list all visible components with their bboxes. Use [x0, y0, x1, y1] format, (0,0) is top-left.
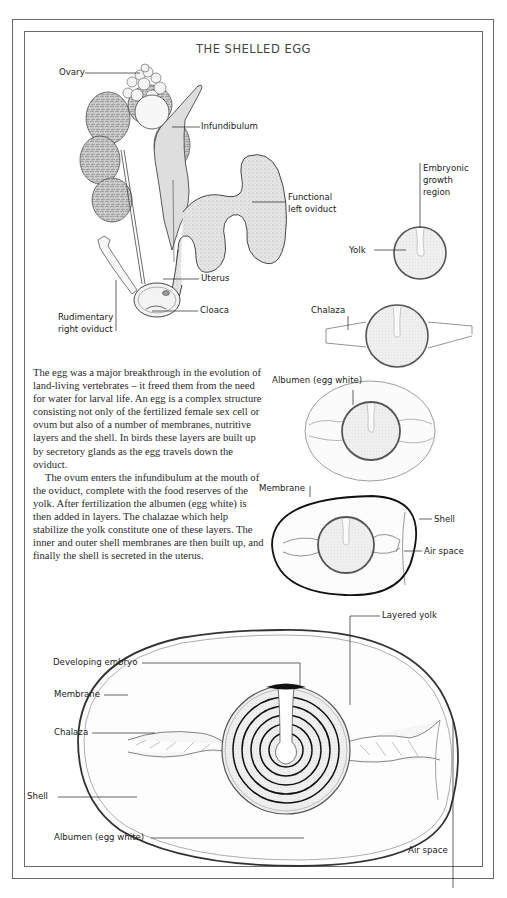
label-membrane-stage: Membrane: [259, 483, 305, 494]
shelled-egg-stage-drawing: [272, 486, 432, 595]
label-embryonic-1: Embryonic: [423, 163, 469, 174]
label-infundibulum: Infundibulum: [201, 121, 258, 132]
label-uterus: Uterus: [201, 273, 229, 284]
label-rudimentary-1: Rudimentary: [58, 312, 113, 323]
label-albumen-stage: Albumen (egg white): [272, 375, 362, 386]
paragraph-1: The egg was a major breakthrough in the …: [33, 366, 265, 471]
label-functional-left-oviduct-2: left oviduct: [288, 204, 336, 215]
chalaza-stage-drawing: [326, 305, 472, 367]
label-air-space-stage: Air space: [424, 546, 464, 557]
label-albumen: Albumen (egg white): [54, 832, 144, 843]
label-air-space: Air space: [408, 845, 448, 856]
label-ovary: Ovary: [59, 67, 85, 78]
label-chalaza-stage: Chalaza: [311, 305, 345, 316]
albumen-stage-drawing: [305, 381, 435, 481]
body-text: The egg was a major breakthrough in the …: [33, 366, 265, 562]
label-functional-left-oviduct-1: Functional: [288, 192, 332, 203]
label-embryonic-3: region: [423, 187, 450, 198]
label-chalaza: Chalaza: [54, 727, 88, 738]
paragraph-2: The ovum enters the infundibulum at the …: [33, 471, 265, 563]
label-membrane: Membrane: [54, 689, 100, 700]
label-yolk: Yolk: [349, 245, 366, 256]
label-rudimentary-2: right oviduct: [58, 324, 113, 335]
label-shell-stage: Shell: [434, 514, 455, 525]
label-cloaca: Cloaca: [200, 305, 229, 316]
label-embryonic-2: growth: [423, 175, 453, 186]
label-layered-yolk: Layered yolk: [382, 610, 437, 621]
label-shell: Shell: [27, 791, 48, 802]
label-developing-embryo: Developing embryo: [53, 657, 137, 668]
